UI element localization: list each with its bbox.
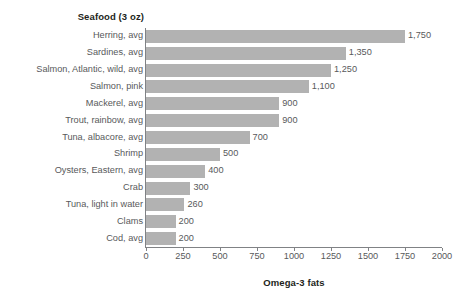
category-label: Salmon, pink [90, 82, 143, 91]
category-label: Sardines, avg [87, 49, 143, 58]
tick-label: 2000 [432, 252, 452, 261]
category-label: Salmon, Atlantic, wild, avg [36, 66, 143, 75]
category-label: Herring, avg [93, 32, 143, 41]
tick-label: 500 [212, 252, 227, 261]
category-label: Shrimp [114, 150, 143, 159]
bar-value-label: 260 [187, 200, 202, 209]
bar: 900 [146, 114, 279, 127]
tick-label: 750 [249, 252, 264, 261]
value-axis-ticks: 025050075010001250150017502000 [146, 248, 442, 268]
bar-value-label: 300 [193, 183, 208, 192]
bar: 200 [146, 215, 176, 228]
omega3-seafood-bar-chart: Seafood (3 oz) Herring, avg1,750Sardines… [0, 0, 469, 298]
bar-value-label: 500 [223, 150, 238, 159]
value-axis-title: Omega-3 fats [146, 277, 442, 288]
bar-row: Oysters, Eastern, avg400 [146, 165, 442, 178]
plot-area: Herring, avg1,750Sardines, avg1,350Salmo… [146, 28, 442, 247]
category-label: Cod, avg [106, 234, 143, 243]
bar-value-label: 400 [208, 167, 223, 176]
bar-value-label: 1,750 [408, 32, 431, 41]
bar-value-label: 700 [253, 133, 268, 142]
bar: 1,100 [146, 80, 309, 93]
bar-row: Salmon, Atlantic, wild, avg1,250 [146, 64, 442, 77]
bar: 500 [146, 148, 220, 161]
category-label: Oysters, Eastern, avg [55, 167, 143, 176]
bar: 1,750 [146, 30, 405, 43]
bar-value-label: 900 [282, 116, 297, 125]
bar-row: Sardines, avg1,350 [146, 47, 442, 60]
tick-label: 1000 [284, 252, 304, 261]
bar-row: Tuna, light in water260 [146, 198, 442, 211]
category-label: Mackerel, avg [86, 99, 143, 108]
tick-label: 1500 [358, 252, 378, 261]
bar-row: Trout, rainbow, avg900 [146, 114, 442, 127]
bar: 1,250 [146, 64, 331, 77]
bar-row: Shrimp500 [146, 148, 442, 161]
bar-value-label: 200 [179, 217, 194, 226]
series-axis-title: Seafood (3 oz) [0, 11, 144, 22]
bar: 700 [146, 131, 250, 144]
bar: 260 [146, 198, 184, 211]
bar: 400 [146, 165, 205, 178]
bar-row: Salmon, pink1,100 [146, 80, 442, 93]
bar-rows: Herring, avg1,750Sardines, avg1,350Salmo… [146, 28, 442, 247]
bar-row: Herring, avg1,750 [146, 30, 442, 43]
bar-value-label: 1,100 [312, 82, 335, 91]
category-label: Trout, rainbow, avg [65, 116, 143, 125]
bar-value-label: 1,250 [334, 66, 357, 75]
bar-row: Mackerel, avg900 [146, 97, 442, 110]
category-label: Tuna, light in water [66, 200, 143, 209]
bar: 300 [146, 182, 190, 195]
category-label: Tuna, albacore, avg [62, 133, 143, 142]
bar-row: Crab300 [146, 182, 442, 195]
bar: 900 [146, 97, 279, 110]
bar-value-label: 200 [179, 234, 194, 243]
tick-label: 1250 [321, 252, 341, 261]
bar-row: Tuna, albacore, avg700 [146, 131, 442, 144]
tick-label: 250 [175, 252, 190, 261]
bar: 1,350 [146, 47, 346, 60]
category-label: Crab [123, 183, 143, 192]
bar-value-label: 1,350 [349, 49, 372, 58]
bar-row: Cod, avg200 [146, 232, 442, 245]
category-label: Clams [117, 217, 143, 226]
tick-label: 0 [143, 252, 148, 261]
tick-label: 1750 [395, 252, 415, 261]
bar-row: Clams200 [146, 215, 442, 228]
bar-value-label: 900 [282, 99, 297, 108]
bar: 200 [146, 232, 176, 245]
